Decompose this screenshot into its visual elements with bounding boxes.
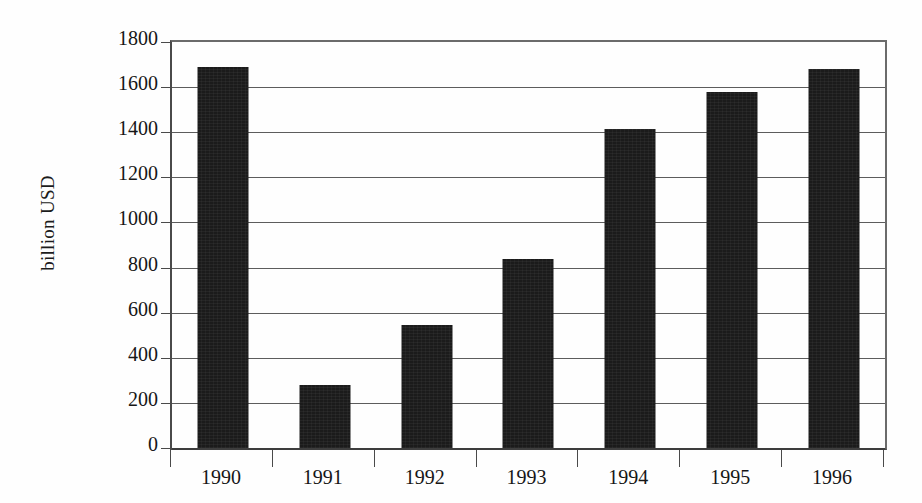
- y-tick-label: 1000: [38, 207, 158, 230]
- x-tick-label-1995: 1995: [679, 466, 781, 489]
- bar-slot: [681, 42, 783, 448]
- bar-chart-figure: billion USD 0200400600800100012001400160…: [0, 0, 922, 503]
- y-tick-mark: [161, 42, 172, 43]
- y-tick-label: 1200: [38, 162, 158, 185]
- bars-layer: [172, 42, 885, 448]
- y-tick-label: 800: [38, 253, 158, 276]
- y-tick-mark: [161, 448, 172, 449]
- bar-1993: [503, 259, 554, 448]
- bar-1996: [809, 69, 860, 448]
- y-tick-mark: [161, 403, 172, 404]
- gridline: [172, 448, 885, 450]
- y-tick-mark: [161, 132, 172, 133]
- bar-slot: [172, 42, 274, 448]
- bar-1990: [197, 67, 248, 448]
- bar-1992: [401, 325, 452, 448]
- x-tick-mark: [679, 450, 680, 467]
- bar-slot: [783, 42, 885, 448]
- bar-slot: [579, 42, 681, 448]
- x-tick-label-1996: 1996: [781, 466, 883, 489]
- y-tick-label: 400: [38, 343, 158, 366]
- y-tick-mark: [161, 358, 172, 359]
- y-tick-label: 1400: [38, 117, 158, 140]
- x-tick-mark: [476, 450, 477, 467]
- y-tick-mark: [161, 222, 172, 223]
- x-tick-label-1992: 1992: [374, 466, 476, 489]
- plot-area: [170, 40, 887, 450]
- x-tick-mark: [374, 450, 375, 467]
- x-tick-label-1994: 1994: [577, 466, 679, 489]
- x-tick-mark: [577, 450, 578, 467]
- x-tick-label-1991: 1991: [272, 466, 374, 489]
- x-tick-label-1993: 1993: [476, 466, 578, 489]
- x-tick-mark: [781, 450, 782, 467]
- y-tick-label: 600: [38, 298, 158, 321]
- y-tick-mark: [161, 313, 172, 314]
- y-tick-label: 0: [38, 433, 158, 456]
- x-tick-mark: [272, 450, 273, 467]
- x-tick-label-1990: 1990: [170, 466, 272, 489]
- bar-slot: [274, 42, 376, 448]
- bar-1991: [299, 385, 350, 448]
- bar-slot: [478, 42, 580, 448]
- y-tick-label: 1600: [38, 72, 158, 95]
- y-tick-mark: [161, 268, 172, 269]
- x-tick-mark: [883, 450, 884, 467]
- y-tick-label: 1800: [38, 27, 158, 50]
- x-tick-mark: [170, 450, 171, 467]
- bar-slot: [376, 42, 478, 448]
- y-tick-label: 200: [38, 388, 158, 411]
- bar-1994: [605, 129, 656, 448]
- bar-1995: [707, 92, 758, 448]
- y-tick-mark: [161, 177, 172, 178]
- y-tick-mark: [161, 87, 172, 88]
